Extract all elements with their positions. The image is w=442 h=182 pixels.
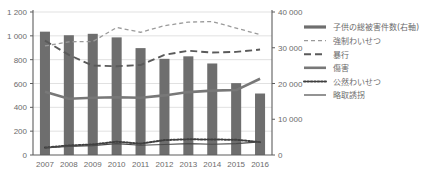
legend-label: 暴行 <box>333 50 349 60</box>
legend-label: 略取誘拐 <box>333 90 365 100</box>
left-axis-tick-label: 1 000 <box>7 32 28 41</box>
bar-2014[interactable] <box>207 63 217 155</box>
bar-2009[interactable] <box>88 34 98 155</box>
left-axis-tick-label: 400 <box>14 103 28 112</box>
right-axis-tick-label: 10 000 <box>278 115 303 124</box>
x-axis-tick-label: 2008 <box>60 160 78 169</box>
chart-container: 02004006008001 0001 200010 00020 00030 0… <box>0 0 442 182</box>
x-axis-tick-label: 2013 <box>179 160 197 169</box>
left-axis-tick-label: 600 <box>14 80 28 89</box>
legend-item[interactable]: 公然わいせつ <box>304 77 381 87</box>
right-axis-tick-label: 30 000 <box>278 44 303 53</box>
x-axis-tick-label: 2014 <box>203 160 221 169</box>
series-line <box>45 79 260 99</box>
x-axis-tick-label: 2010 <box>108 160 126 169</box>
left-axis-tick-label: 800 <box>14 56 28 65</box>
legend-label: 強制わいせつ <box>333 36 381 46</box>
legend-item[interactable]: 子供の総被害件数(右軸) <box>304 22 419 32</box>
legend-label: 公然わいせつ <box>333 77 381 87</box>
right-axis-tick-label: 40 000 <box>278 8 303 17</box>
left-axis-tick-label: 0 <box>23 151 28 160</box>
right-axis-tick-label: 0 <box>278 151 283 160</box>
x-axis-tick-label: 2015 <box>227 160 245 169</box>
x-axis-tick-label: 2009 <box>84 160 102 169</box>
legend-item[interactable]: 強制わいせつ <box>304 36 381 46</box>
bar-2016[interactable] <box>255 94 265 155</box>
right-axis-tick-label: 20 000 <box>278 80 303 89</box>
chart-svg: 02004006008001 0001 200010 00020 00030 0… <box>0 0 442 182</box>
left-axis-tick-label: 200 <box>14 127 28 136</box>
x-axis-tick-label: 2011 <box>132 160 150 169</box>
left-axis-tick-label: 1 200 <box>7 8 28 17</box>
series-line <box>45 41 260 67</box>
legend-label: 子供の総被害件数(右軸) <box>333 22 419 32</box>
legend-item[interactable]: 暴行 <box>304 50 349 60</box>
x-axis-tick-label: 2016 <box>251 160 269 169</box>
x-axis-tick-label: 2007 <box>36 160 54 169</box>
x-axis-tick-label: 2012 <box>156 160 174 169</box>
series-line <box>45 22 260 46</box>
legend-label: 傷害 <box>333 63 349 73</box>
legend-item[interactable]: 略取誘拐 <box>304 90 365 100</box>
legend-item[interactable]: 傷害 <box>304 63 349 73</box>
